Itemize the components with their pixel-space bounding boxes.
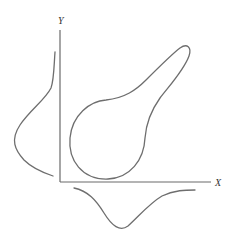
joint-density-contour xyxy=(70,46,190,179)
marginal-density-y xyxy=(14,52,55,176)
diagram-canvas: Y X xyxy=(0,0,231,238)
y-axis-label: Y xyxy=(58,15,65,26)
marginal-density-x xyxy=(74,188,195,228)
x-axis-label: X xyxy=(214,177,222,188)
